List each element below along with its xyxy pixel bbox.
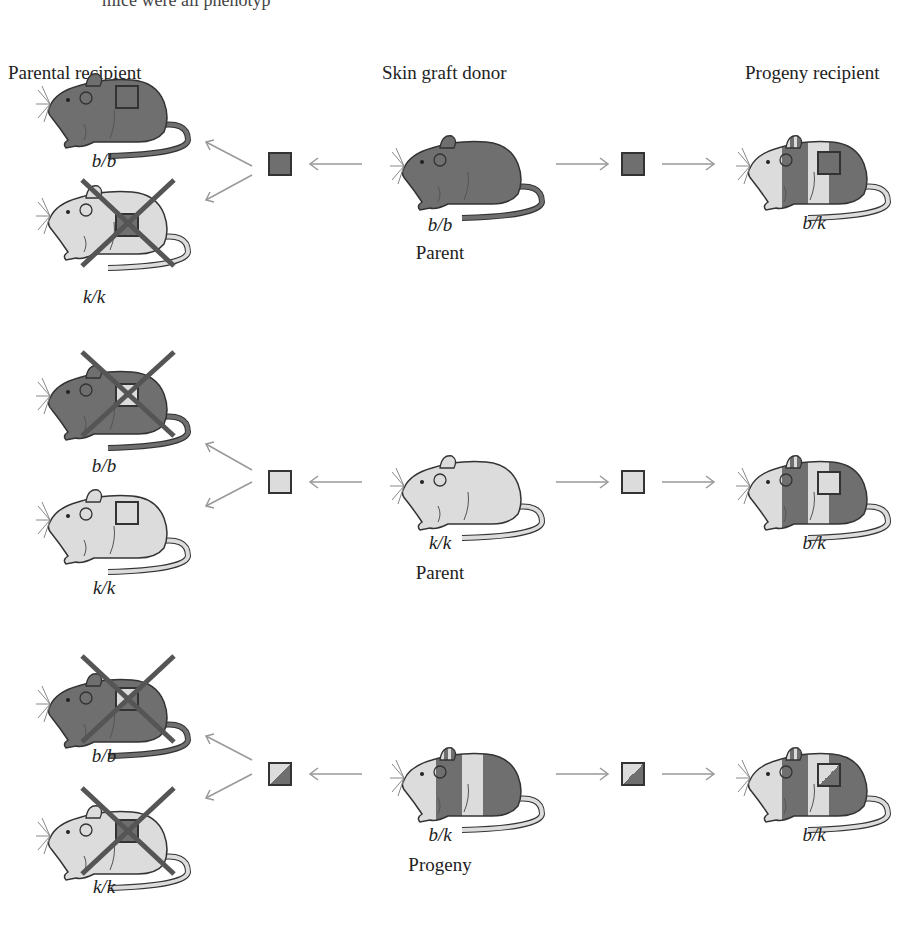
genotype-row1-progeny: b/k [774, 212, 854, 234]
genotype-row2-donor: k/k [400, 532, 480, 554]
mouse-row1-progeny-bk [736, 136, 888, 218]
mouse-row1-parent-kk [36, 180, 188, 268]
genotype-row3-parent-bb: b/b [64, 745, 144, 767]
mouse-row3-donor-bk [390, 748, 542, 830]
mouse-row2-donor-kk [390, 456, 542, 538]
mouse-row2-parent-kk [36, 490, 188, 572]
graft-row3-left [269, 763, 291, 785]
role-row3-donor: Progeny [380, 854, 500, 876]
role-row2-donor: Parent [380, 562, 500, 584]
mouse-row1-donor-bb [390, 136, 542, 218]
mouse-row1-parent-bb [36, 74, 188, 156]
mouse-row2-parent-bb [36, 352, 188, 448]
graft-row1-right [622, 153, 644, 175]
genotype-row1-parent-bb: b/b [64, 150, 144, 172]
graft-row1-left [269, 153, 291, 175]
genotype-row1-donor: b/b [400, 214, 480, 236]
mouse-row3-parent-kk [36, 788, 188, 888]
genotype-row2-parent-kk: k/k [64, 577, 144, 599]
genotype-row3-parent-kk: k/k [64, 876, 144, 898]
role-row1-donor: Parent [380, 242, 500, 264]
graft-row2-left [269, 471, 291, 493]
genotype-row3-progeny: b/k [774, 824, 854, 846]
mouse-row2-progeny-bk [736, 456, 888, 538]
genotype-row3-donor: b/k [400, 824, 480, 846]
genotype-row2-parent-bb: b/b [64, 455, 144, 477]
genotype-row2-progeny: b/k [774, 532, 854, 554]
genotype-row1-parent-kk: k/k [54, 286, 134, 308]
graft-row3-right [622, 763, 644, 785]
graft-row2-right [622, 471, 644, 493]
mouse-row3-parent-bb [36, 656, 188, 756]
mouse-row3-progeny-bk [736, 748, 888, 830]
